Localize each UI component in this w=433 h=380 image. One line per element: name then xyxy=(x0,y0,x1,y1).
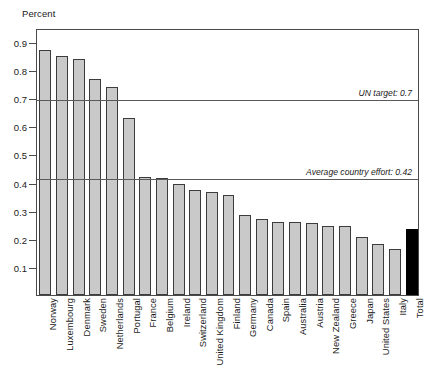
y-axis-tick-label: 0.7 xyxy=(1,94,27,105)
x-axis-label: Switzerland xyxy=(198,298,208,347)
x-axis-label: Norway xyxy=(48,298,58,330)
bar xyxy=(206,192,218,295)
y-axis-tick xyxy=(29,240,36,241)
bar xyxy=(256,219,268,295)
x-axis-label: Australia xyxy=(298,298,308,335)
y-axis-tick-label: 0.3 xyxy=(1,206,27,217)
y-axis-tick-label: 0.9 xyxy=(1,38,27,49)
bar xyxy=(406,229,418,295)
x-axis-label: Denmark xyxy=(82,298,92,336)
y-axis-tick xyxy=(29,99,36,100)
plot-area: UN target: 0.7Average country effort: 0.… xyxy=(36,29,419,296)
x-axis-label: Total xyxy=(415,298,425,318)
x-axis-label: Luxembourg xyxy=(65,298,75,351)
y-axis-tick-label: 0.6 xyxy=(1,122,27,133)
x-axis-label: United Kingdom xyxy=(215,298,225,366)
y-axis-tick xyxy=(29,71,36,72)
y-axis-tick xyxy=(29,184,36,185)
y-axis-tick xyxy=(29,43,36,44)
y-axis-tick-label: 0.2 xyxy=(1,234,27,245)
bar-chart: Percent 0.10.20.30.40.50.60.70.80.9 UN t… xyxy=(0,0,433,380)
y-axis-title: Percent xyxy=(22,8,55,19)
x-axis-label: France xyxy=(148,298,158,328)
bar xyxy=(106,87,118,295)
bar xyxy=(139,177,151,295)
x-axis-label: Netherlands xyxy=(115,298,125,349)
y-axis-tick xyxy=(29,212,36,213)
reference-line xyxy=(37,100,418,101)
x-axis-label: United States xyxy=(381,298,391,355)
bar xyxy=(389,249,401,295)
x-axis-label: Ireland xyxy=(182,298,192,327)
bars-group xyxy=(37,30,418,295)
y-axis-tick xyxy=(29,155,36,156)
bar xyxy=(272,222,284,295)
y-axis-tick-label: 0.4 xyxy=(1,178,27,189)
reference-line-label: Average country effort: 0.42 xyxy=(306,167,412,179)
bar xyxy=(289,222,301,295)
bar xyxy=(156,178,168,295)
x-axis-label: Sweden xyxy=(98,298,108,332)
x-axis-label: Austria xyxy=(315,298,325,328)
y-axis-tick xyxy=(29,127,36,128)
bar xyxy=(239,215,251,295)
bar xyxy=(223,195,235,295)
bar xyxy=(89,79,101,295)
bar xyxy=(56,56,68,295)
y-axis-tick-label: 0.1 xyxy=(1,262,27,273)
bar xyxy=(173,184,185,295)
y-axis-tick xyxy=(29,268,36,269)
bar xyxy=(339,226,351,295)
bar xyxy=(356,237,368,295)
reference-line xyxy=(37,179,418,180)
bar xyxy=(123,118,135,295)
x-axis-label: Germany xyxy=(248,298,258,337)
y-axis-tick-label: 0.8 xyxy=(1,66,27,77)
bar xyxy=(39,50,51,295)
bar xyxy=(372,244,384,295)
x-axis-label: Belgium xyxy=(165,298,175,332)
reference-line-label: UN target: 0.7 xyxy=(359,88,413,100)
x-axis-labels: NorwayLuxembourgDenmarkSwedenNetherlands… xyxy=(36,298,419,378)
x-axis-label: Japan xyxy=(365,298,375,324)
x-axis-label: Italy xyxy=(398,298,408,316)
x-axis-label: Spain xyxy=(281,298,291,322)
x-axis-label: Finland xyxy=(232,298,242,329)
bar xyxy=(306,223,318,295)
bar xyxy=(189,190,201,295)
x-axis-label: Canada xyxy=(265,298,275,331)
bar xyxy=(73,59,85,295)
x-axis-label: New Zealand xyxy=(331,298,341,354)
x-axis-label: Greece xyxy=(348,298,358,329)
bar xyxy=(322,226,334,295)
y-axis-tick-label: 0.5 xyxy=(1,150,27,161)
x-axis-label: Portugal xyxy=(132,298,142,333)
